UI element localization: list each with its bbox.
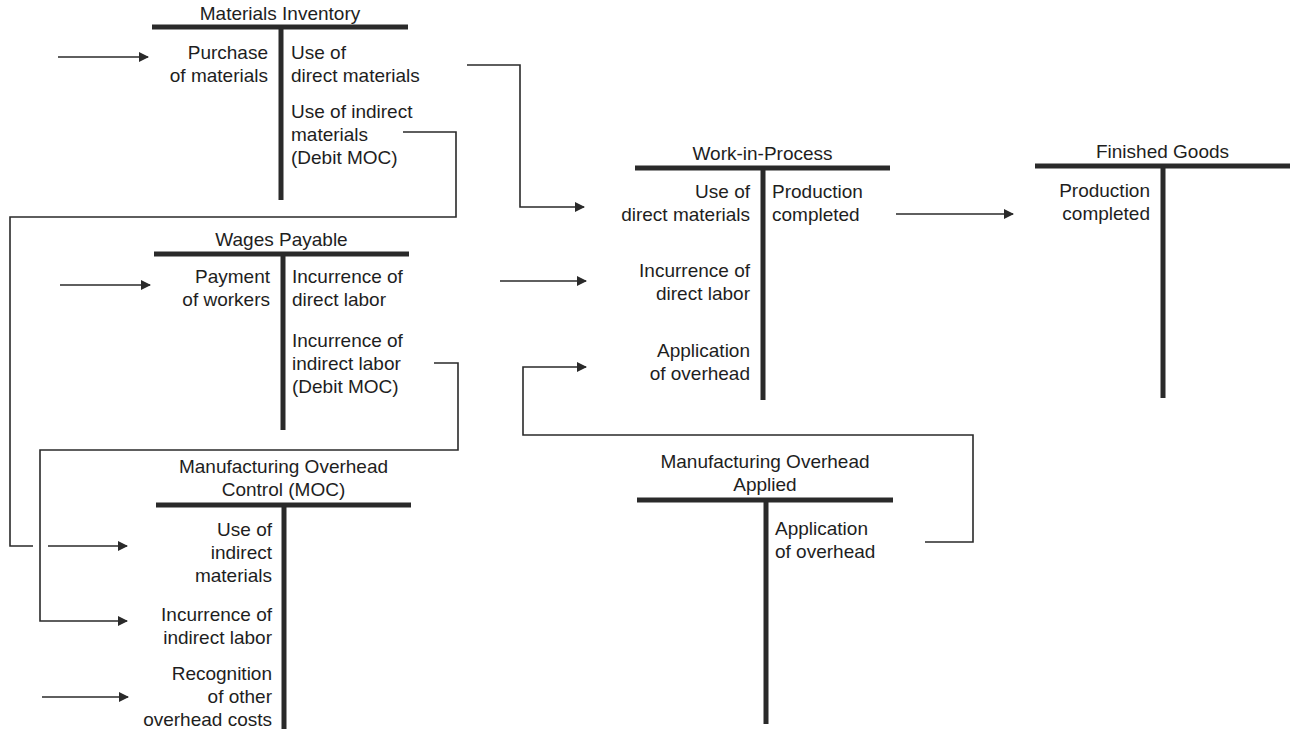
debit-entry: Use of direct materials bbox=[580, 180, 750, 226]
credit-entry: Use of indirect materials (Debit MOC) bbox=[291, 100, 412, 169]
debit-entry: Production completed bbox=[1000, 179, 1150, 225]
credit-entry: Incurrence of indirect labor (Debit MOC) bbox=[292, 329, 403, 398]
debit-entry: Application of overhead bbox=[580, 339, 750, 385]
account-title: Work-in-Process bbox=[635, 142, 890, 165]
debit-entry: Payment of workers bbox=[100, 265, 270, 311]
account-title: Manufacturing Overhead Control (MOC) bbox=[156, 455, 411, 501]
credit-entry: Incurrence of direct labor bbox=[292, 265, 403, 311]
debit-entry: Incurrence of direct labor bbox=[580, 259, 750, 305]
arrow-direct-materials-to-wip bbox=[467, 65, 584, 207]
credit-entry: Use of direct materials bbox=[291, 41, 420, 87]
debit-entry: Purchase of materials bbox=[100, 41, 268, 87]
credit-entry: Application of overhead bbox=[775, 517, 875, 563]
account-title: Wages Payable bbox=[154, 228, 409, 251]
credit-entry: Production completed bbox=[772, 180, 863, 226]
debit-entry: Use of indirect materials bbox=[100, 518, 272, 587]
account-title: Finished Goods bbox=[1035, 140, 1290, 163]
account-title: Materials Inventory bbox=[152, 2, 408, 25]
debit-entry: Incurrence of indirect labor bbox=[100, 603, 272, 649]
debit-entry: Recognition of other overhead costs bbox=[100, 662, 272, 731]
account-title: Manufacturing Overhead Applied bbox=[637, 450, 893, 496]
